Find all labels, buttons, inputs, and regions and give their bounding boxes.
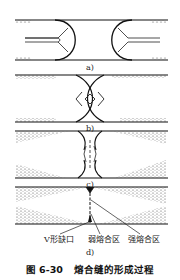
caption-title: 熔合缝的形成过程 bbox=[74, 264, 154, 275]
weak-weld-zone-label: 弱熔合区 bbox=[88, 236, 120, 244]
panel-c-label: c) bbox=[86, 180, 94, 189]
panel-a-label: a) bbox=[86, 63, 94, 72]
strong-weld-zone-label: 强熔合区 bbox=[128, 236, 160, 244]
panel-a bbox=[15, 20, 168, 60]
figure-caption: 图 6-30 熔合缝的形成过程 bbox=[0, 262, 180, 276]
panel-d bbox=[15, 187, 168, 234]
v-notch-label: V形缺口 bbox=[44, 236, 74, 244]
panel-b-label: b) bbox=[86, 124, 94, 133]
panel-d-label: d) bbox=[86, 248, 94, 257]
caption-number: 图 6-30 bbox=[26, 264, 63, 275]
panel-b bbox=[15, 75, 168, 122]
panel-c bbox=[15, 131, 168, 178]
